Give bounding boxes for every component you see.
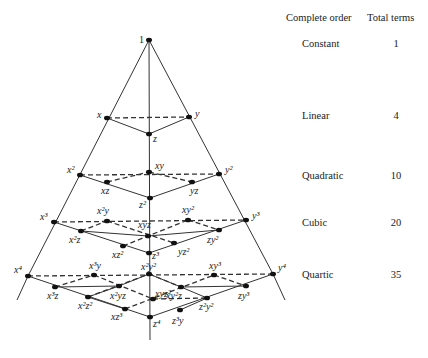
node-dot	[216, 228, 222, 233]
solid-edge	[55, 286, 119, 287]
node-dot	[186, 115, 192, 120]
node-dot	[51, 220, 57, 225]
term-node-x: x	[96, 109, 110, 120]
term-label: xyz²	[154, 288, 172, 299]
node-dot	[120, 244, 126, 249]
term-node-z4: z⁴	[147, 315, 161, 329]
pascal-tetrahedron-diagram: 1xyzx²xyy²xzyzz²x³x²yxy²y³x²zxyzzy²xz²yz…	[0, 0, 300, 358]
node-dot	[243, 218, 249, 223]
term-label: zy²	[206, 234, 219, 245]
term-node-z: z	[146, 132, 157, 144]
term-node-yz2: yz²	[171, 241, 190, 257]
node-dot	[146, 272, 152, 277]
node-dot	[91, 273, 97, 278]
term-node-x3z: x³z	[46, 285, 58, 301]
node-dot	[78, 229, 84, 234]
dashed-edge	[149, 172, 192, 182]
terms-cubic: 20	[381, 217, 411, 228]
node-dot	[147, 196, 153, 201]
term-label: 1	[139, 34, 144, 45]
terms-constant: 1	[381, 38, 411, 49]
node-dot	[85, 295, 91, 300]
node-dot	[171, 241, 177, 246]
node-dot	[146, 170, 152, 175]
term-label: xz²	[111, 249, 124, 260]
term-node-xy3: xy³	[208, 260, 222, 277]
term-label: zy³	[237, 290, 250, 301]
solid-edge	[149, 220, 246, 253]
term-label: yz²	[177, 246, 190, 257]
node-dot	[77, 173, 83, 178]
term-label: xy³	[208, 260, 222, 271]
node-dot	[146, 132, 152, 137]
term-label: yz	[189, 185, 198, 196]
dashed-edge	[188, 220, 219, 230]
node-dot	[145, 234, 151, 239]
solid-edge	[181, 287, 207, 298]
node-dot	[211, 273, 217, 278]
node-dot	[25, 274, 31, 279]
term-label: z²y²	[198, 301, 214, 312]
term-node-x4: x⁴	[13, 264, 31, 278]
term-node-x2z2: x²z²	[77, 295, 93, 311]
term-node-xz2: xz²	[111, 244, 126, 260]
dashed-edge	[107, 117, 189, 118]
term-label: xy	[154, 160, 164, 171]
dashed-edge	[81, 221, 107, 231]
node-dot	[177, 308, 183, 313]
node-dot	[270, 272, 276, 277]
node-dot	[52, 285, 58, 290]
solid-edge	[107, 118, 149, 134]
node-dot	[122, 307, 128, 312]
term-node-y2: y²	[216, 164, 233, 176]
term-node-z2y2: z²y²	[198, 296, 214, 312]
term-label: x²y	[96, 205, 109, 216]
term-label: x²z	[68, 234, 80, 245]
term-node-z3y: z³y	[171, 308, 184, 326]
term-node-y4: y⁴	[270, 262, 286, 276]
node-dot	[116, 284, 122, 289]
term-label: xz³	[110, 311, 123, 322]
left-edge-line	[17, 40, 149, 300]
dashed-edges	[28, 117, 273, 309]
term-label: x²z²	[77, 300, 93, 311]
terms-linear: 4	[381, 110, 411, 121]
term-label: x³y	[88, 260, 101, 271]
term-node-z2: z²	[138, 196, 153, 210]
solid-edge	[119, 274, 149, 286]
terms-quadratic: 10	[381, 170, 411, 181]
order-quadratic: Quadratic	[302, 170, 343, 181]
term-label: x²	[66, 164, 75, 175]
term-label: x	[96, 109, 102, 120]
term-node-x2y2: x²y²	[140, 261, 157, 276]
term-label: y⁴	[277, 262, 286, 273]
header-total-terms: Total terms	[367, 12, 414, 23]
node-dot	[104, 219, 110, 224]
term-label: xyz	[137, 219, 151, 230]
solid-edge	[80, 175, 150, 198]
term-node-x3y: x³y	[88, 260, 101, 277]
header-complete-order: Complete order	[286, 12, 352, 23]
term-label: x⁴	[13, 264, 22, 275]
term-node-1: 1	[139, 34, 152, 45]
term-node-xz3: xz³	[110, 307, 128, 322]
solid-edges	[28, 117, 273, 317]
solid-edge	[149, 274, 181, 287]
node-dot	[146, 38, 152, 43]
term-label: z³y	[171, 315, 184, 326]
solid-edge	[150, 174, 219, 198]
node-dot	[216, 172, 222, 177]
term-label: x²yz	[109, 290, 126, 301]
order-constant: Constant	[302, 38, 339, 49]
node-dot	[185, 218, 191, 223]
term-node-z3: z³	[146, 250, 160, 261]
term-label: y³	[251, 210, 260, 221]
order-cubic: Cubic	[302, 217, 327, 228]
term-node-x3: x³	[39, 211, 57, 224]
term-node-xy: xy	[146, 160, 164, 174]
node-dot	[204, 296, 210, 301]
term-label: xy²	[181, 204, 195, 215]
terms-quartic: 35	[381, 269, 411, 280]
node-dot	[178, 285, 184, 290]
term-label: x³z	[46, 290, 58, 301]
